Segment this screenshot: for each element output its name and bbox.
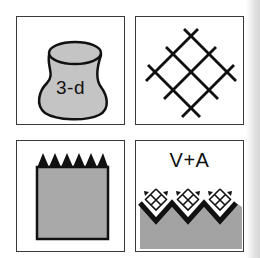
panel-lattice xyxy=(135,16,244,125)
panel-v-plus-a: V+A xyxy=(135,140,244,252)
blob-3d-icon xyxy=(17,17,126,126)
panel-3d: 3-d xyxy=(16,16,125,125)
label-3d: 3-d xyxy=(17,77,124,99)
zigzag-surface-icon xyxy=(136,141,245,253)
panel-sawtooth xyxy=(16,140,125,252)
sawtooth-block-icon xyxy=(17,141,126,253)
lattice-icon xyxy=(136,17,245,126)
page-edge-shadow xyxy=(246,0,260,258)
